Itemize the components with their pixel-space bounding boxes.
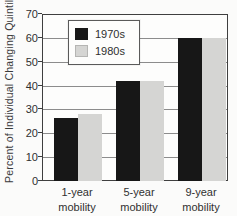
category-label-line: 1-year — [45, 185, 109, 200]
legend-swatch-1980s — [75, 45, 88, 57]
y-tick-label-30: 30 — [14, 103, 38, 115]
category-label-line: 5-year — [107, 185, 171, 200]
legend: 1970s1980s — [68, 20, 140, 65]
legend-item-1970s: 1970s — [75, 25, 133, 42]
y-tick-mark-40 — [38, 85, 42, 86]
category-label-line: 9-year — [169, 185, 233, 200]
y-tick-label-10: 10 — [14, 151, 38, 163]
legend-label-1980s: 1980s — [95, 45, 125, 57]
y-tick-label-50: 50 — [14, 56, 38, 68]
bar-1980s-9-year — [202, 38, 226, 181]
y-tick-mark-10 — [38, 156, 42, 157]
y-tick-mark-70 — [38, 13, 42, 14]
y-tick-label-70: 70 — [14, 8, 38, 20]
y-tick-label-20: 20 — [14, 127, 38, 139]
bar-1970s-1-year — [54, 118, 78, 181]
y-tick-mark-60 — [38, 37, 42, 38]
bar-1970s-5-year — [116, 81, 140, 181]
bar-1980s-1-year — [78, 114, 102, 181]
y-tick-label-0: 0 — [14, 175, 38, 187]
bar-1970s-9-year — [178, 38, 202, 181]
category-label-9-year: 9-yearmobility — [169, 185, 233, 214]
category-label-5-year: 5-yearmobility — [107, 185, 171, 214]
category-label-1-year: 1-yearmobility — [45, 185, 109, 214]
bar-1980s-5-year — [140, 81, 164, 181]
bar-chart: Percent of Individual Changing Quintiles… — [0, 0, 237, 216]
legend-swatch-1970s — [75, 28, 88, 40]
legend-item-1980s: 1980s — [75, 42, 133, 59]
category-label-line: mobility — [45, 200, 109, 215]
legend-label-1970s: 1970s — [95, 28, 125, 40]
y-tick-label-60: 60 — [14, 32, 38, 44]
y-tick-mark-30 — [38, 108, 42, 109]
y-tick-mark-20 — [38, 132, 42, 133]
y-tick-label-40: 40 — [14, 80, 38, 92]
category-label-line: mobility — [169, 200, 233, 215]
y-tick-mark-50 — [38, 61, 42, 62]
category-label-line: mobility — [107, 200, 171, 215]
y-tick-mark-0 — [38, 180, 42, 181]
